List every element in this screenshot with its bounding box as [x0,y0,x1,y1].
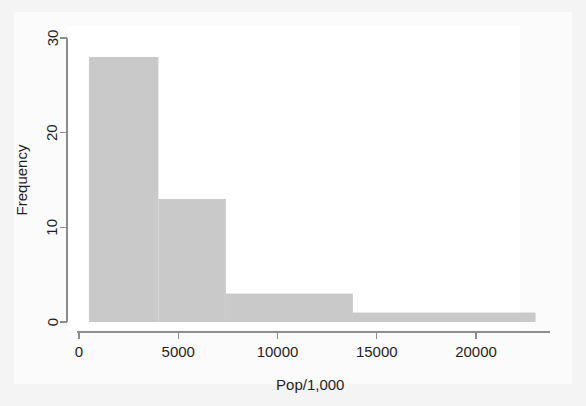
bar-series [89,57,536,322]
histogram-bar [353,313,536,322]
x-axis-title: Pop/1,000 [276,376,344,393]
histogram-bar [158,199,225,322]
x-tick-label: 0 [75,343,83,360]
x-tick-label: 5000 [162,343,195,360]
histogram-bar [226,294,353,322]
histogram-svg: 05000100001500020000 0102030 Pop/1,000 F… [0,0,586,406]
y-axis-ticks: 0102030 [44,30,68,327]
y-tick-label: 10 [44,219,61,236]
x-tick-label: 10000 [257,343,299,360]
y-axis-title: Frequency [13,144,30,215]
histogram-figure: 05000100001500020000 0102030 Pop/1,000 F… [0,0,586,406]
x-tick-label: 15000 [356,343,398,360]
histogram-bar [89,57,158,322]
x-axis-ticks: 05000100001500020000 [75,332,497,360]
x-tick-label: 20000 [455,343,497,360]
plot-area: 05000100001500020000 0102030 Pop/1,000 F… [0,0,586,406]
y-tick-label: 30 [44,30,61,47]
y-tick-label: 20 [44,124,61,141]
y-tick-label: 0 [44,318,61,326]
